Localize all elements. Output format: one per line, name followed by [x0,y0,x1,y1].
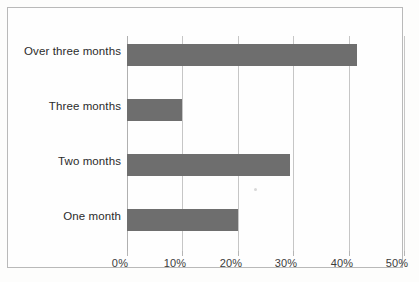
gridline-50 [404,36,405,251]
y-axis-tick-label: Over three months [24,45,121,57]
bar-two-months [127,154,290,176]
gridline-30 [293,36,294,251]
x-axis-tick-label: 0% [100,257,140,269]
chart-border: Over three months Three months Two month… [7,7,403,268]
y-axis-tick-label: One month [63,210,121,222]
x-axis-tick [404,251,405,256]
x-axis-tick-label: 40% [322,257,362,269]
y-axis-tick-label: Three months [49,100,121,112]
y-axis-labels: Over three months Three months Two month… [8,36,121,251]
x-axis-tick-label: 30% [266,257,306,269]
x-axis-tick [238,251,239,256]
chart-figure: Over three months Three months Two month… [0,0,419,282]
x-axis-tick-label: 20% [211,257,251,269]
x-axis-tick-label: 50% [377,257,417,269]
x-axis-tick-label: 10% [155,257,195,269]
y-axis-tick-label: Two months [58,155,121,167]
gridline-20 [238,36,239,251]
plot-area [127,36,404,251]
gridline-40 [349,36,350,251]
bar-three-months [127,99,182,121]
bar-over-three-months [127,44,357,66]
x-axis-tick [293,251,294,256]
x-axis-tick [349,251,350,256]
x-axis-tick [182,251,183,256]
scan-artifact-speck [254,188,257,191]
bar-one-month [127,209,238,231]
x-axis-tick [127,251,128,256]
